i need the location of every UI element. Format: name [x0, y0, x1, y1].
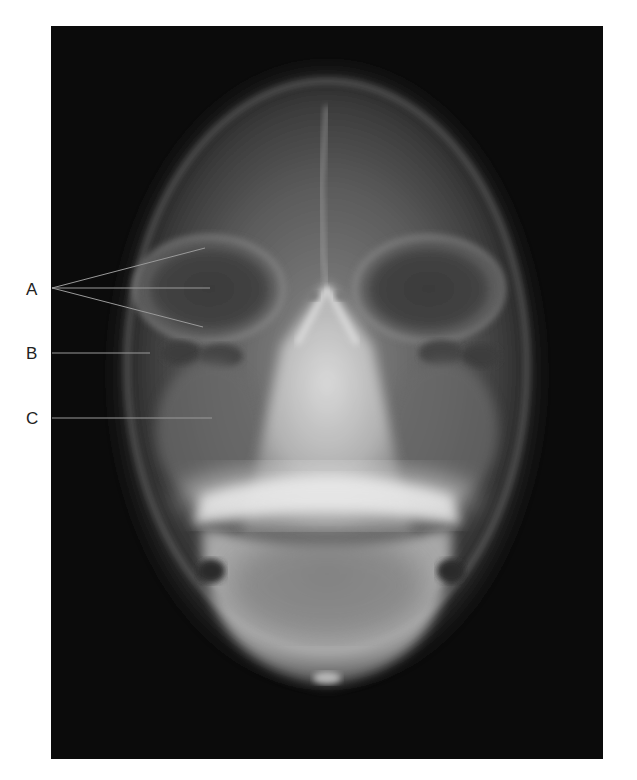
- skull-radiograph: [51, 26, 603, 759]
- label-c: C: [26, 410, 38, 427]
- label-b: B: [26, 345, 37, 362]
- skull-xray-illustration: [51, 26, 603, 759]
- label-a: A: [26, 281, 37, 298]
